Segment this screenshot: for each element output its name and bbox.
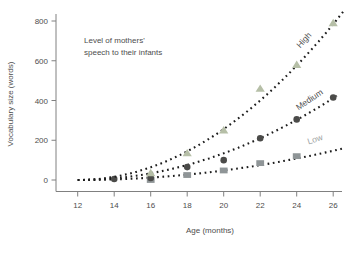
data-point-circle <box>220 157 227 164</box>
y-tick-label: 200 <box>35 136 49 145</box>
chart-canvas: 02004006008001214161820222426 Vocabulary… <box>0 0 363 259</box>
data-point-square <box>256 160 264 166</box>
data-point-square <box>183 172 191 178</box>
data-point-circle <box>111 176 118 183</box>
x-tick-label: 16 <box>146 201 155 210</box>
data-point-circle <box>184 164 191 171</box>
data-point-square <box>220 168 228 174</box>
data-point-triangle <box>256 84 265 91</box>
x-axis-title: Age (months) <box>186 226 234 235</box>
x-tick-label: 22 <box>256 201 265 210</box>
y-tick-label: 0 <box>44 176 49 185</box>
y-tick-label: 800 <box>35 17 49 26</box>
y-tick-label: 400 <box>35 97 49 106</box>
data-point-triangle <box>292 61 301 68</box>
y-axis-title: Vocabulary size (words) <box>6 61 15 146</box>
x-tick-label: 12 <box>73 201 82 210</box>
x-tick-label: 18 <box>183 201 192 210</box>
x-tick-label: 26 <box>329 201 338 210</box>
data-point-triangle <box>219 126 228 133</box>
annotation-line-2: speech to their infants <box>84 48 162 57</box>
data-point-triangle <box>329 19 338 26</box>
y-tick-label: 600 <box>35 57 49 66</box>
fit-curve-low <box>78 148 344 180</box>
data-point-circle <box>257 135 264 142</box>
x-tick-label: 24 <box>292 201 301 210</box>
vocabulary-growth-chart: 02004006008001214161820222426 Vocabulary… <box>0 0 363 259</box>
data-point-square <box>293 153 301 159</box>
annotation-line-1: Level of mothers' <box>84 36 145 45</box>
x-tick-label: 20 <box>219 201 228 210</box>
data-point-triangle <box>146 169 155 176</box>
series-label-low: Low <box>306 132 325 147</box>
data-point-circle <box>293 116 300 123</box>
x-tick-label: 14 <box>110 201 119 210</box>
series-label-high: High <box>294 30 313 50</box>
data-point-circle <box>330 94 337 101</box>
series-label-medium: Medium <box>294 87 325 112</box>
